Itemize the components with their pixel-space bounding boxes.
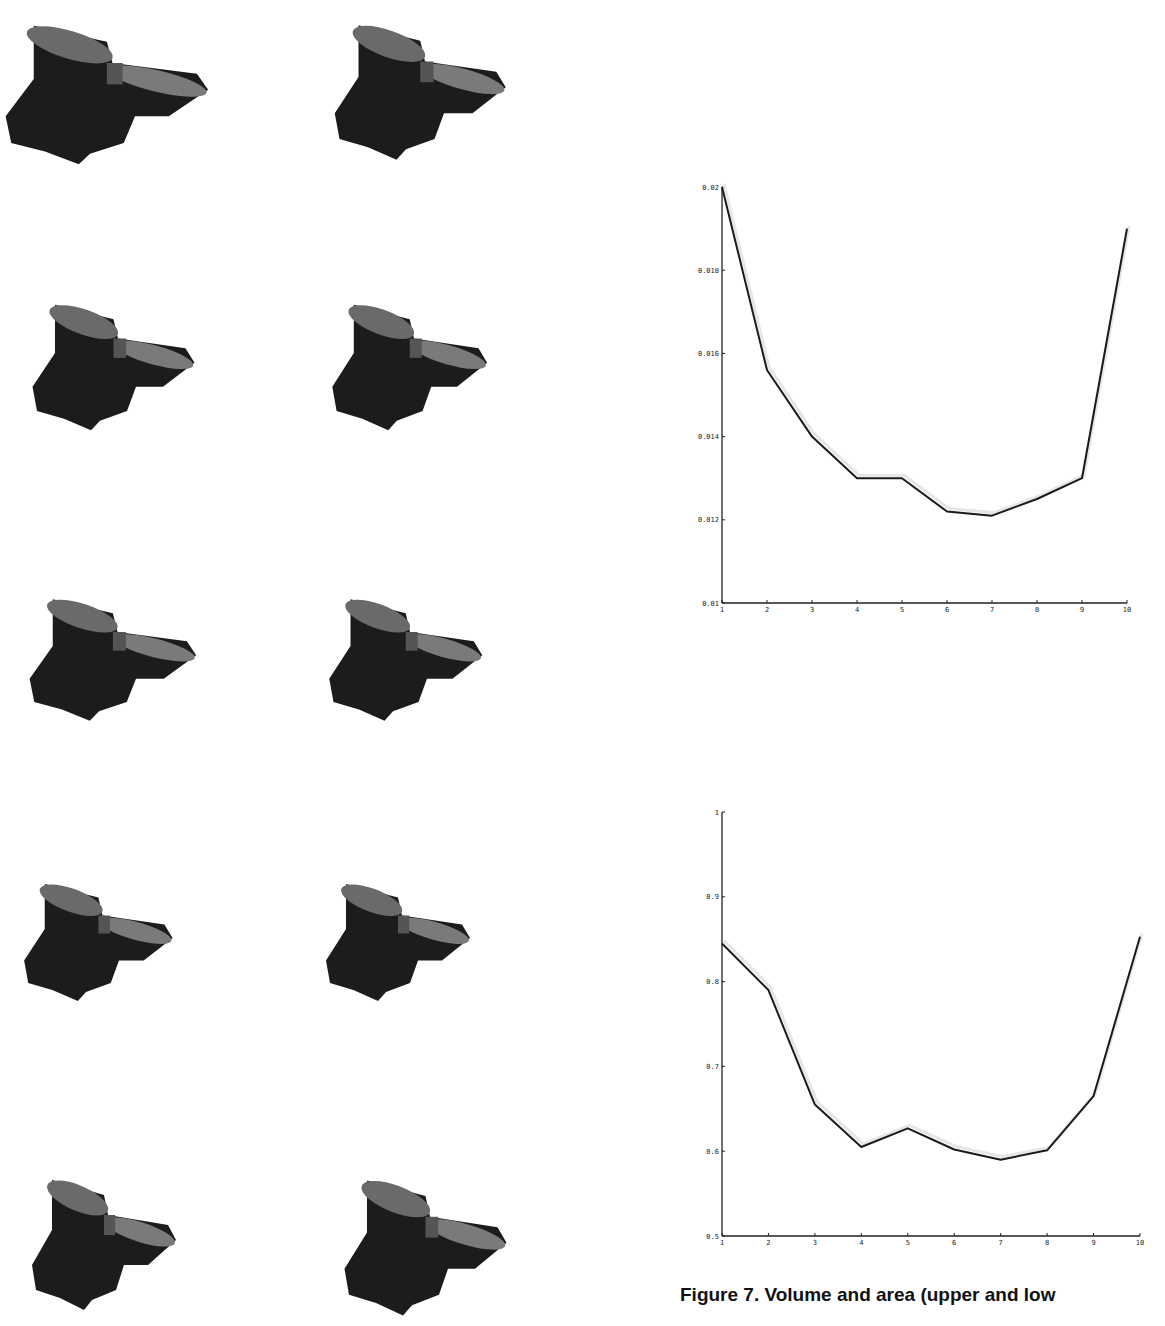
shape-thumbnail <box>328 295 500 440</box>
x-tick-label: 6 <box>952 1239 956 1247</box>
x-tick-label: 9 <box>1080 606 1084 614</box>
x-tick-label: 10 <box>1136 1239 1144 1247</box>
shape-thumbnail <box>322 875 482 1010</box>
x-tick-label: 10 <box>1123 606 1131 614</box>
x-tick-label: 9 <box>1091 1239 1095 1247</box>
x-tick-label: 4 <box>855 606 859 614</box>
x-tick-label: 5 <box>900 606 904 614</box>
shape-thumbnail <box>325 590 495 730</box>
data-line <box>722 187 1127 516</box>
y-tick-label: 0.018 <box>698 267 719 275</box>
y-tick-label: 0.016 <box>698 350 719 358</box>
y-tick-label: 1 <box>715 809 719 817</box>
y-tick-label: 0.014 <box>698 433 719 441</box>
area-line-plot: 0.50.60.70.80.9112345678910 <box>680 800 1165 1260</box>
x-tick-label: 2 <box>765 606 769 614</box>
shape-thumbnail <box>0 15 225 175</box>
y-tick-label: 0.01 <box>702 600 719 608</box>
volume-chart: 0.010.0120.0140.0160.0180.0212345678910 <box>680 180 1165 630</box>
x-tick-label: 8 <box>1045 1239 1049 1247</box>
y-tick-label: 0.9 <box>706 893 719 901</box>
x-tick-label: 1 <box>720 1239 724 1247</box>
x-tick-label: 4 <box>859 1239 863 1247</box>
y-tick-label: 0.012 <box>698 516 719 524</box>
x-tick-label: 2 <box>766 1239 770 1247</box>
area-chart: 0.50.60.70.80.9112345678910 <box>680 800 1165 1260</box>
x-tick-label: 5 <box>906 1239 910 1247</box>
y-tick-label: 0.8 <box>706 978 719 986</box>
x-tick-label: 7 <box>990 606 994 614</box>
y-tick-label: 0.7 <box>706 1063 719 1071</box>
shape-thumbnail <box>340 1170 520 1326</box>
shape-thumbnail <box>25 590 210 730</box>
shape-thumbnail <box>28 1170 188 1320</box>
x-tick-label: 7 <box>999 1239 1003 1247</box>
x-tick-label: 8 <box>1035 606 1039 614</box>
y-tick-label: 0.6 <box>706 1148 719 1156</box>
data-line <box>722 937 1140 1160</box>
figure-caption: Figure 7. Volume and area (upper and low <box>680 1284 1056 1306</box>
x-tick-label: 1 <box>720 606 724 614</box>
volume-line-plot: 0.010.0120.0140.0160.0180.0212345678910 <box>680 180 1165 630</box>
y-tick-label: 0.5 <box>706 1233 719 1241</box>
x-tick-label: 3 <box>810 606 814 614</box>
shape-thumbnail <box>28 295 208 440</box>
y-tick-label: 0.02 <box>702 184 719 192</box>
x-tick-label: 6 <box>945 606 949 614</box>
shape-thumbnail <box>20 875 185 1010</box>
x-tick-label: 3 <box>813 1239 817 1247</box>
shape-thumbnail <box>330 15 520 170</box>
